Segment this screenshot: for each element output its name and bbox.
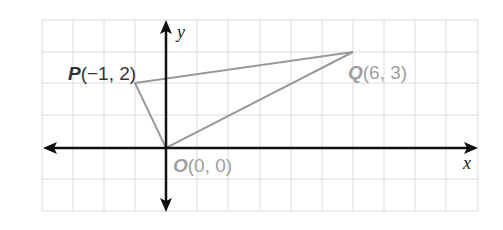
y-axis [160,20,172,212]
point-q-name: Q [348,62,363,83]
y-axis-label: y [177,22,185,43]
coordinate-plane [0,0,503,230]
point-p-name: P [68,63,81,84]
point-q-label: Q(6, 3) [348,63,407,82]
grid [42,20,478,211]
point-q-coords: (6, 3) [363,62,407,83]
point-o-label: O(0, 0) [173,156,232,175]
point-p-coords: (−1, 2) [81,63,136,84]
x-axis-label: x [463,153,471,174]
point-o-coords: (0, 0) [188,155,232,176]
point-p-label: P(−1, 2) [68,64,136,83]
point-o-name: O [173,155,188,176]
triangle-opq [135,52,353,148]
